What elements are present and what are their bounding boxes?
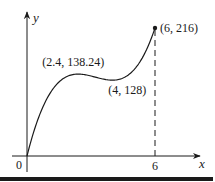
endpoint-point-label: (6, 216) bbox=[160, 21, 198, 35]
bottom-rule bbox=[0, 177, 213, 181]
local-min-point-label: (4, 128) bbox=[108, 83, 146, 97]
endpoint-dot bbox=[153, 26, 157, 30]
function-graph: y x 0 6 (2.4, 138.24)(4, 128)(6, 216) bbox=[0, 0, 215, 182]
local-max-point-label: (2.4, 138.24) bbox=[42, 55, 104, 69]
x-tick-label: 6 bbox=[152, 159, 158, 173]
x-axis-label: x bbox=[198, 156, 205, 171]
origin-label: 0 bbox=[16, 158, 22, 172]
y-axis-label: y bbox=[31, 10, 39, 25]
